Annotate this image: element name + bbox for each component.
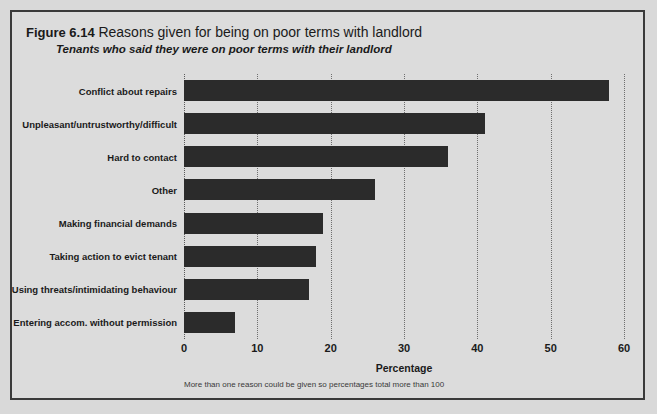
bar-series: Conflict about repairsUnpleasant/untrust… xyxy=(184,74,624,339)
bar[interactable]: Hard to contact xyxy=(184,146,448,167)
x-tick-label: 10 xyxy=(251,342,263,354)
category-label: Unpleasant/untrustworthy/difficult xyxy=(22,118,177,129)
bar-row[interactable]: Conflict about repairs xyxy=(184,74,624,107)
category-label: Other xyxy=(152,184,177,195)
category-label: Conflict about repairs xyxy=(79,85,177,96)
bar[interactable]: Making financial demands xyxy=(184,213,323,234)
bar[interactable]: Taking action to evict tenant xyxy=(184,246,316,267)
figure-title-line: Figure 6.14 Reasons given for being on p… xyxy=(26,24,633,41)
bar[interactable]: Other xyxy=(184,179,375,200)
bar[interactable]: Unpleasant/untrustworthy/difficult xyxy=(184,113,485,134)
category-label: Using threats/intimidating behaviour xyxy=(12,284,177,295)
figure-panel: Figure 6.14 Reasons given for being on p… xyxy=(10,10,645,400)
x-tick-label: 30 xyxy=(398,342,410,354)
plot-area: Conflict about repairsUnpleasant/untrust… xyxy=(184,74,624,339)
gridline xyxy=(624,74,626,339)
x-axis-tick-labels: 0102030405060 xyxy=(184,342,624,358)
figure-header: Figure 6.14 Reasons given for being on p… xyxy=(26,24,633,55)
bar-row[interactable]: Making financial demands xyxy=(184,207,624,240)
bar-row[interactable]: Taking action to evict tenant xyxy=(184,240,624,273)
x-axis-title: Percentage xyxy=(184,362,624,374)
x-tick-label: 60 xyxy=(618,342,630,354)
bar-row[interactable]: Unpleasant/untrustworthy/difficult xyxy=(184,107,624,140)
x-tick-label: 40 xyxy=(471,342,483,354)
bar[interactable]: Using threats/intimidating behaviour xyxy=(184,279,309,300)
category-label: Making financial demands xyxy=(59,218,177,229)
bar[interactable]: Conflict about repairs xyxy=(184,80,609,101)
figure-subtitle: Tenants who said they were on poor terms… xyxy=(56,43,633,55)
figure-footnote: More than one reason could be given so p… xyxy=(184,380,444,389)
category-label: Hard to contact xyxy=(107,151,177,162)
category-label: Entering accom. without permission xyxy=(13,317,177,328)
x-tick-label: 0 xyxy=(181,342,187,354)
bar-row[interactable]: Other xyxy=(184,173,624,206)
x-tick-label: 20 xyxy=(325,342,337,354)
figure-number: Figure 6.14 xyxy=(26,25,95,40)
bar-row[interactable]: Hard to contact xyxy=(184,140,624,173)
category-label: Taking action to evict tenant xyxy=(49,251,177,262)
x-tick-label: 50 xyxy=(545,342,557,354)
bar-row[interactable]: Entering accom. without permission xyxy=(184,306,624,339)
page-title: Reasons given for being on poor terms wi… xyxy=(98,24,422,40)
bar-row[interactable]: Using threats/intimidating behaviour xyxy=(184,273,624,306)
bar[interactable]: Entering accom. without permission xyxy=(184,312,235,333)
